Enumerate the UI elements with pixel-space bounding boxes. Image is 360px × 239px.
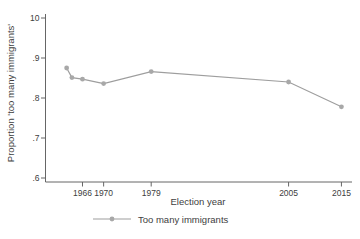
line-chart-figure: 10.9.8.7.619661970197920052015 Proportio… (0, 0, 360, 239)
y-tick-label: .9 (32, 53, 39, 63)
y-axis-title: Proportion 'too many immigrants' (5, 13, 17, 173)
x-axis-title: Election year (143, 196, 253, 207)
x-tick-label: 2005 (279, 188, 298, 198)
x-tick-label: 2015 (332, 188, 351, 198)
data-point (64, 66, 69, 71)
legend: Too many immigrants (92, 212, 228, 226)
x-tick-label: 1966 (73, 188, 92, 198)
legend-line-marker-icon (92, 213, 132, 225)
y-tick-label: .8 (32, 93, 39, 103)
data-line (67, 68, 342, 107)
y-tick-label: .6 (32, 173, 39, 183)
data-point (149, 69, 154, 74)
y-tick-label: .7 (32, 133, 39, 143)
data-point (339, 104, 344, 109)
y-tick-label: 10 (30, 13, 40, 23)
data-point (70, 75, 75, 80)
data-point (80, 77, 85, 82)
x-tick-label: 1970 (94, 188, 113, 198)
legend-label: Too many immigrants (138, 214, 228, 225)
data-point (101, 81, 106, 86)
data-point (286, 80, 291, 85)
